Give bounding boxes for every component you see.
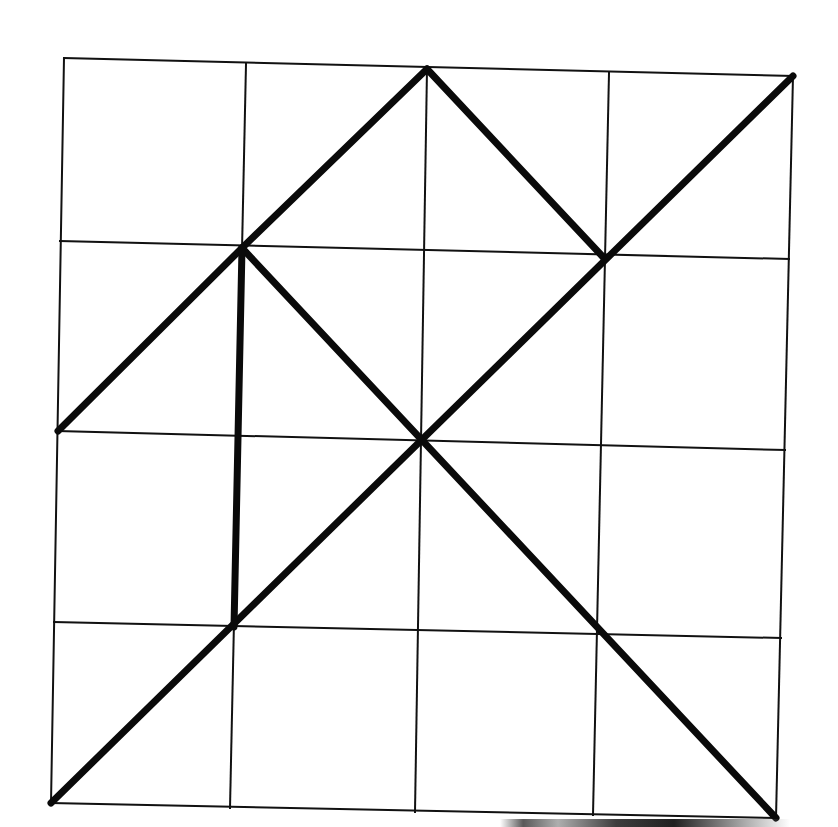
left-rising-segment [58,248,242,431]
grid-vertical-line [776,76,793,818]
upper-rising-segment [242,69,427,248]
scan-shadow [500,819,790,827]
grid-horizontal-line [51,803,776,818]
grid-vertical-line [593,73,609,815]
top-falling-segment [427,69,603,257]
vertical-segment [234,248,242,627]
heavy-lines [51,69,793,818]
